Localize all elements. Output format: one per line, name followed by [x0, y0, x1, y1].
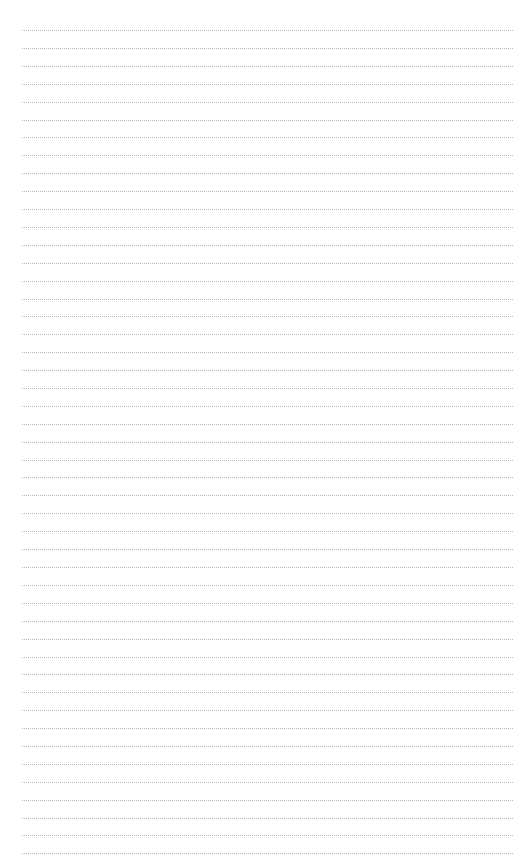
ruled-line: [22, 388, 513, 389]
ruled-line: [22, 818, 513, 819]
ruled-line: [22, 674, 513, 675]
ruled-line: [22, 66, 513, 67]
ruled-line: [22, 299, 513, 300]
ruled-line: [22, 406, 513, 407]
ruled-line: [22, 477, 513, 478]
ruled-line: [22, 782, 513, 783]
ruled-line: [22, 30, 513, 31]
ruled-line: [22, 155, 513, 156]
ruled-line: [22, 442, 513, 443]
ruled-line: [22, 531, 513, 532]
ruled-line: [22, 585, 513, 586]
ruled-line: [22, 263, 513, 264]
ruled-line: [22, 48, 513, 49]
ruled-line: [22, 853, 513, 854]
ruled-line: [22, 800, 513, 801]
ruled-line: [22, 603, 513, 604]
ruled-line: [22, 513, 513, 514]
ruled-line: [22, 835, 513, 836]
ruled-line: [22, 120, 513, 121]
ruled-line: [22, 227, 513, 228]
ruled-line: [22, 370, 513, 371]
ruled-line: [22, 281, 513, 282]
ruled-line: [22, 639, 513, 640]
ruled-line: [22, 746, 513, 747]
ruled-line: [22, 657, 513, 658]
ruled-line: [22, 567, 513, 568]
ruled-line: [22, 137, 513, 138]
ruled-line: [22, 191, 513, 192]
ruled-line: [22, 102, 513, 103]
ruled-line: [22, 710, 513, 711]
ruled-line: [22, 495, 513, 496]
ruled-line: [22, 209, 513, 210]
ruled-line: [22, 549, 513, 550]
ruled-line: [22, 621, 513, 622]
lined-paper-page: [0, 0, 532, 863]
ruled-line: [22, 460, 513, 461]
ruled-line: [22, 173, 513, 174]
ruled-line: [22, 316, 513, 317]
ruled-line: [22, 84, 513, 85]
ruled-line: [22, 692, 513, 693]
ruled-line: [22, 728, 513, 729]
ruled-line: [22, 245, 513, 246]
ruled-line: [22, 352, 513, 353]
ruled-line: [22, 764, 513, 765]
ruled-line: [22, 334, 513, 335]
ruled-line: [22, 424, 513, 425]
